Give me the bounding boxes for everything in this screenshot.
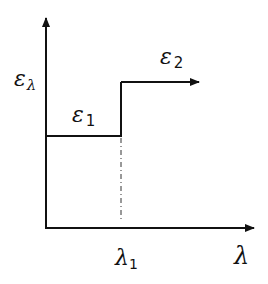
x-axis-label: λ [233,242,249,270]
segment1-label: ε1 [72,102,95,130]
y-axis-label: ελ [14,66,36,94]
step-emissivity-diagram: ελ ε1 ε2 λ1 λ [0,0,268,284]
x-tick-label: λ1 [114,245,138,272]
segment2-label: ε2 [160,44,183,72]
